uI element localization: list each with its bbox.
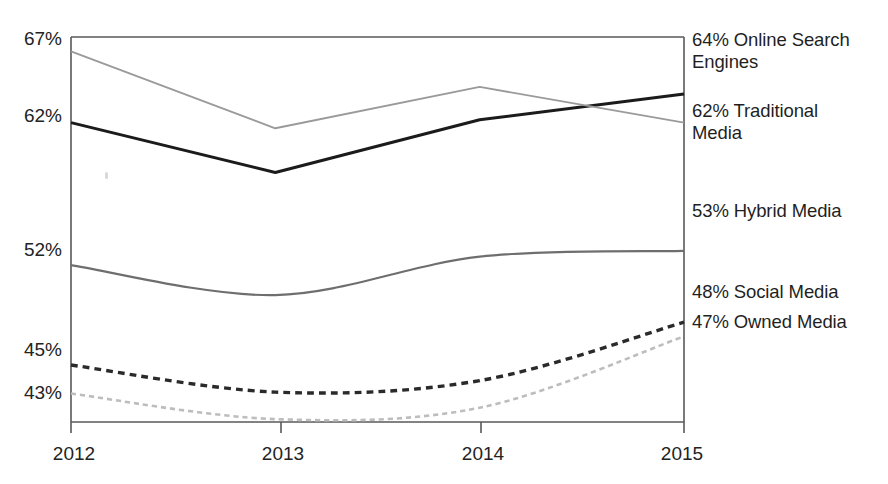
xtick-label-2012: 2012 bbox=[53, 443, 95, 464]
xtick-label-2013: 2013 bbox=[262, 443, 304, 464]
xtick-label-2014: 2014 bbox=[462, 443, 505, 464]
ytick-label-45: 45% bbox=[24, 339, 62, 360]
series-line-hybrid-media bbox=[71, 251, 684, 295]
ytick-label-62: 62% bbox=[24, 105, 62, 126]
series-group bbox=[71, 51, 684, 420]
series-line-owned-media bbox=[71, 336, 684, 420]
series-end-label-owned-media: 47% Owned Media bbox=[692, 311, 847, 333]
ytick-label-52: 52% bbox=[24, 239, 62, 260]
series-end-label-traditional-media: 62% Traditional Media bbox=[692, 100, 818, 144]
series-end-label-hybrid-media: 53% Hybrid Media bbox=[692, 200, 842, 222]
page-caption bbox=[0, 474, 888, 484]
ytick-label-43: 43% bbox=[24, 382, 62, 403]
ytick-label-67: 67% bbox=[24, 28, 62, 49]
series-line-social-media bbox=[71, 322, 684, 393]
series-line-traditional-media bbox=[71, 51, 684, 128]
series-end-label-social-media: 48% Social Media bbox=[692, 281, 838, 303]
series-end-label-online-search-engines: 64% Online Search Engines bbox=[692, 29, 850, 73]
scan-speck-artifact bbox=[105, 172, 108, 179]
xtick-label-2015: 2015 bbox=[661, 443, 703, 464]
line-chart: 67% 62% 52% 45% 43% 2012 2013 2014 2015 … bbox=[0, 0, 888, 484]
